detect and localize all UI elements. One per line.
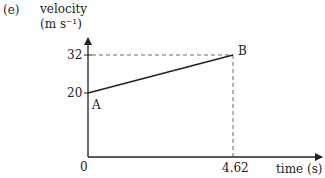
velocity-line xyxy=(88,55,233,93)
xtick-462-label: 4.62 xyxy=(222,161,249,175)
point-b-label: B xyxy=(238,44,247,58)
y-axis-label: velocity xyxy=(40,2,87,16)
origin-label: 0 xyxy=(80,160,88,174)
point-a-label: A xyxy=(92,98,101,112)
y-axis-units: (m s⁻¹) xyxy=(40,17,82,31)
figure-label: (e) xyxy=(3,3,19,17)
x-axis-label: time (s) xyxy=(276,162,322,176)
ytick-32-label: 32 xyxy=(67,48,82,62)
ytick-20-label: 20 xyxy=(67,86,82,100)
